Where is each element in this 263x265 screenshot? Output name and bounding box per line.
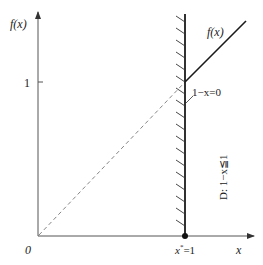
optimal-point bbox=[182, 233, 188, 239]
curve-label: f(x) bbox=[207, 25, 224, 39]
dashed-extension-line bbox=[39, 82, 185, 235]
diagram-canvas: f(x) 1 0 x x*=1 f(x) 1−x=0 D: 1−x≦1 bbox=[0, 0, 263, 265]
x-point-label: x*=1 bbox=[174, 243, 195, 256]
y-axis-label: f(x) bbox=[10, 17, 27, 31]
y-tick-label: 1 bbox=[24, 76, 30, 90]
origin-label: 0 bbox=[25, 243, 31, 257]
boundary-label: 1−x=0 bbox=[192, 86, 221, 98]
x-axis-label: x bbox=[235, 243, 242, 257]
hatch-marks bbox=[176, 16, 185, 226]
region-label: D: 1−x≦1 bbox=[217, 155, 229, 200]
